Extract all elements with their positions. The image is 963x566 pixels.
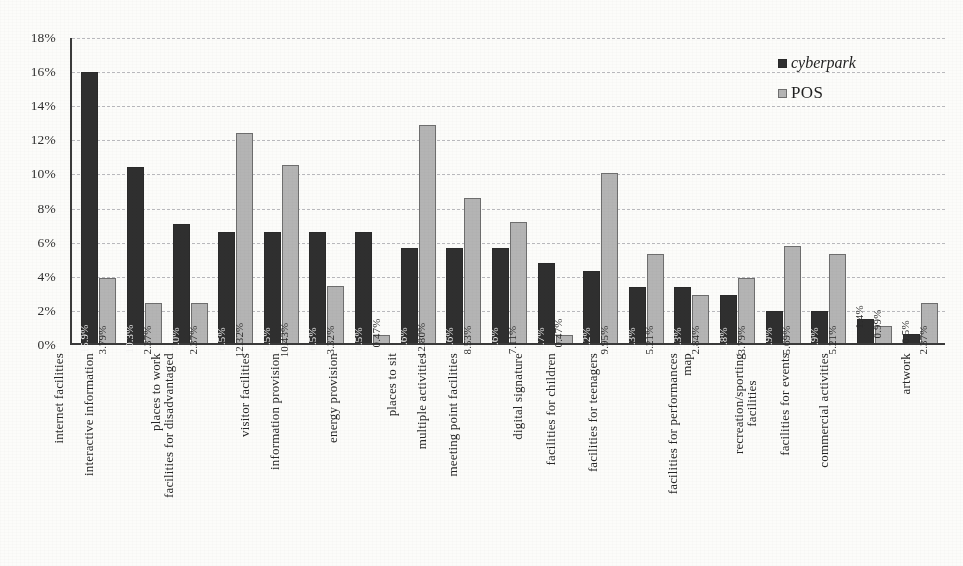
bar-value-label: 1.4% bbox=[854, 305, 865, 328]
bar-value-label: 0.47% bbox=[371, 319, 382, 348]
bar: 0.99% bbox=[875, 326, 892, 343]
bar: 2.37% bbox=[145, 303, 162, 343]
bar-value-label: 5.6% bbox=[489, 327, 500, 350]
x-axis-category-label-line: recreation/sporting bbox=[732, 353, 745, 454]
x-axis-category-label: digital signature bbox=[511, 353, 524, 440]
bar-value-label: 1.9% bbox=[763, 327, 774, 350]
bar-group: 6.5%3.32% bbox=[304, 38, 350, 343]
bar-group: 1.4%0.99% bbox=[852, 38, 898, 343]
x-axis-category-label: recreation/sportingfacilities bbox=[732, 353, 758, 454]
bar: 3.79% bbox=[738, 278, 755, 343]
bar: 15.9% bbox=[81, 72, 98, 343]
bar: 12.32% bbox=[236, 133, 253, 343]
bar-group: 5.6%7.11% bbox=[487, 38, 533, 343]
x-axis-category-label-line: facilities bbox=[745, 353, 758, 454]
bar: 5.21% bbox=[647, 254, 664, 343]
x-axis-category-label: meeting point facilities bbox=[447, 353, 460, 476]
bar-group: 5.6%12.80% bbox=[395, 38, 441, 343]
x-axis-category-label: energy provision bbox=[326, 353, 339, 443]
bar: 2.37% bbox=[191, 303, 208, 343]
x-axis-category-label: facilities for children bbox=[544, 353, 557, 465]
y-axis-tick-label: 12% bbox=[0, 132, 56, 148]
y-axis-tick-label: 16% bbox=[0, 64, 56, 80]
legend-entry-cyberpark: cyberpark bbox=[778, 48, 856, 78]
legend-swatch-pos bbox=[778, 89, 787, 98]
bar-group: 5.6%8.53% bbox=[441, 38, 487, 343]
legend-swatch-cyberpark bbox=[778, 59, 787, 68]
bar-value-label: 1.9% bbox=[809, 327, 820, 350]
bar-chart-figure: 0%2%4%6%8%10%12%14%16%18% 15.9%3.79%10.3… bbox=[0, 0, 963, 566]
x-axis-category-label: commercial activities bbox=[817, 353, 830, 468]
bar-value-label: 3.3% bbox=[626, 327, 637, 350]
bar: 0.47% bbox=[373, 335, 390, 343]
x-axis-label-cell: artwork bbox=[897, 349, 943, 549]
bar-value-label: 5.6% bbox=[444, 327, 455, 350]
bar-value-label: 3.3% bbox=[672, 327, 683, 350]
y-axis-tick-label: 0% bbox=[0, 337, 56, 353]
chart-legend: cyberpark POS bbox=[778, 48, 856, 108]
bar: 0.47% bbox=[556, 335, 573, 343]
y-axis-tick-label: 4% bbox=[0, 269, 56, 285]
y-axis-tick-label: 2% bbox=[0, 303, 56, 319]
x-axis-category-label: places to sit bbox=[385, 353, 398, 416]
bar: 5.69% bbox=[784, 246, 801, 343]
bar-group: 6.5%12.32% bbox=[213, 38, 259, 343]
bar-value-label: 0.99% bbox=[872, 310, 883, 339]
bar: 7.11% bbox=[510, 222, 527, 343]
y-axis-tick-label: 8% bbox=[0, 201, 56, 217]
x-axis-category-label: facilities for teenagers bbox=[586, 353, 599, 472]
bar-group: 15.9%3.79% bbox=[76, 38, 122, 343]
y-axis-tick-labels: 0%2%4%6%8%10%12%14%16%18% bbox=[0, 38, 62, 345]
x-axis-category-label: visitor facilities bbox=[238, 353, 251, 437]
x-axis-category-labels: internet facilitiesinteractive informati… bbox=[70, 349, 945, 549]
legend-label-cyberpark: cyberpark bbox=[791, 54, 856, 72]
bar-group: 7.0%2.37% bbox=[167, 38, 213, 343]
bar: 8.53% bbox=[464, 198, 481, 343]
bar: 9.95% bbox=[601, 173, 618, 343]
bar-value-label: 6.5% bbox=[353, 327, 364, 350]
bar: 12.80% bbox=[419, 125, 436, 343]
bar: 2.37% bbox=[921, 303, 938, 343]
x-axis-category-label: facilities for performances bbox=[667, 353, 680, 494]
bar-value-label: 0.5% bbox=[900, 321, 911, 344]
bar-group: 0.5%2.37% bbox=[897, 38, 943, 343]
x-axis-category-label: facilities for disadvantaged bbox=[162, 353, 175, 498]
bar-group: 6.5%0.47% bbox=[350, 38, 396, 343]
bar-group: 3.3%5.21% bbox=[624, 38, 670, 343]
bar: 3.32% bbox=[327, 286, 344, 343]
bar: 5.21% bbox=[829, 254, 846, 343]
bar-group: 4.2%9.95% bbox=[578, 38, 624, 343]
x-axis-category-label: map bbox=[680, 353, 693, 376]
bar-value-label: 7.0% bbox=[170, 327, 181, 350]
y-axis-tick-label: 18% bbox=[0, 30, 56, 46]
x-axis-category-label: artwork bbox=[899, 353, 912, 394]
y-axis-tick-label: 6% bbox=[0, 235, 56, 251]
bar: 3.79% bbox=[99, 278, 116, 343]
bar-value-label: 0.47% bbox=[553, 319, 564, 348]
bar-group: 6.5%10.43% bbox=[259, 38, 305, 343]
bar-value-label: 4.2% bbox=[581, 327, 592, 350]
bar: 2.84% bbox=[692, 295, 709, 343]
bar-group: 10.3%2.37% bbox=[122, 38, 168, 343]
y-axis-tick-label: 10% bbox=[0, 166, 56, 182]
legend-label-pos: POS bbox=[791, 83, 823, 103]
bar-group: 3.3%2.84% bbox=[669, 38, 715, 343]
x-axis-label-cell: commercial activities bbox=[851, 349, 897, 549]
x-axis-category-label: internet facilities bbox=[52, 353, 65, 444]
bar: 10.3% bbox=[127, 167, 144, 343]
bar-value-label: 6.5% bbox=[216, 327, 227, 350]
x-axis-category-label: facilities for events bbox=[777, 353, 790, 456]
bar-value-label: 6.5% bbox=[307, 327, 318, 350]
bar-group: 2.8%3.79% bbox=[715, 38, 761, 343]
bar-value-label: 6.5% bbox=[261, 327, 272, 350]
bar-group: 4.7%0.47% bbox=[532, 38, 578, 343]
x-axis-category-label: multiple activities bbox=[415, 353, 428, 449]
x-axis-category-label: information provision bbox=[267, 353, 280, 470]
x-axis-label-cell: facilities for teenagers bbox=[623, 349, 669, 549]
bar-value-label: 5.6% bbox=[398, 327, 409, 350]
bar-value-label: 2.8% bbox=[718, 327, 729, 350]
y-axis-tick-label: 14% bbox=[0, 98, 56, 114]
legend-entry-pos: POS bbox=[778, 78, 856, 108]
x-axis-category-label: interactive information bbox=[81, 353, 94, 476]
bar-value-label: 4.7% bbox=[535, 327, 546, 350]
